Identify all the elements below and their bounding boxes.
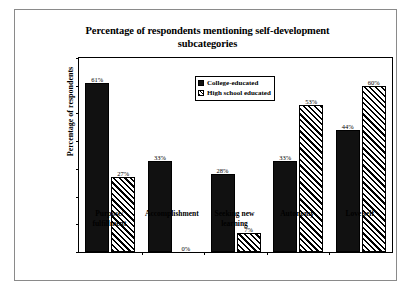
x-category-label-line: Seeking new [203, 209, 266, 219]
x-category-label: Autonomy [266, 209, 329, 219]
y-tick-mark [76, 141, 79, 142]
bar: 33% [273, 161, 297, 252]
chart-title: Percentage of respondents mentioning sel… [55, 24, 360, 50]
x-category-label: Purpose/fulfillment [78, 209, 141, 228]
x-category-label-line: Purpose/ [78, 209, 141, 219]
x-category-label-line: fulfillment [78, 219, 141, 229]
x-category-label: Love self [328, 209, 391, 219]
bar: 53% [299, 105, 323, 252]
x-tick-mark [329, 252, 330, 255]
legend-label-college: College-educated [207, 79, 258, 87]
x-category-label-line: learning [203, 219, 266, 229]
y-axis-title: Percentage of respondents [66, 32, 75, 192]
x-category-label: Accomplishment [141, 209, 204, 219]
bar: 60% [362, 86, 386, 252]
x-category-label-line: Love self [328, 209, 391, 219]
y-tick-mark [76, 113, 79, 114]
bar: 44% [336, 130, 360, 252]
y-tick-mark [76, 58, 79, 59]
legend-swatch-hatch-icon [198, 90, 204, 96]
chart-title-line-2: subcategories [55, 37, 360, 50]
x-tick-mark [204, 252, 205, 255]
bar: 7% [237, 233, 261, 252]
bar-value-label: 27% [117, 170, 129, 177]
x-category-label-line: Accomplishment [141, 209, 204, 219]
y-tick-mark [76, 252, 79, 253]
bar-value-label: 60% [368, 79, 380, 86]
legend-item-college: College-educated [198, 78, 271, 88]
bar-value-label: 33% [279, 154, 291, 161]
chart-page-frame: Percentage of respondents mentioning sel… [14, 9, 397, 281]
legend-label-highschool: High school educated [207, 89, 271, 97]
bar: 33% [148, 161, 172, 252]
x-category-label-line: Autonomy [266, 209, 329, 219]
bar-value-label: 28% [217, 167, 229, 174]
bar-value-label: 44% [342, 123, 354, 130]
x-category-label: Seeking newlearning [203, 209, 266, 228]
bar-value-label: 61% [91, 76, 103, 83]
y-tick-mark [76, 86, 79, 87]
y-tick-mark [76, 197, 79, 198]
x-tick-mark [267, 252, 268, 255]
x-tick-mark [142, 252, 143, 255]
legend-swatch-solid-icon [198, 80, 204, 86]
legend-item-highschool: High school educated [198, 88, 271, 98]
chart-title-line-1: Percentage of respondents mentioning sel… [55, 24, 360, 37]
y-tick-mark [76, 169, 79, 170]
bar-value-label: 53% [305, 98, 317, 105]
chart-legend: College-educated High school educated [195, 76, 275, 101]
bar-value-label: 33% [154, 154, 166, 161]
bar-value-label: 0% [182, 245, 191, 252]
